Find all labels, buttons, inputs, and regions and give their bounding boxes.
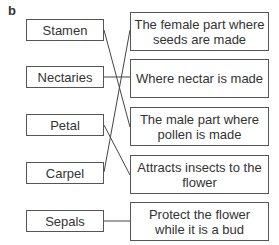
term-stamen[interactable]: Stamen: [26, 19, 104, 41]
definition-male-part[interactable]: The male part where pollen is made: [130, 107, 269, 146]
definition-nectar[interactable]: Where nectar is made: [130, 59, 269, 98]
definition-female-part[interactable]: The female part where seeds are made: [130, 12, 269, 51]
definition-attracts-insects[interactable]: Attracts insects to the flower: [130, 155, 269, 194]
term-sepals[interactable]: Sepals: [26, 210, 104, 232]
term-nectaries[interactable]: Nectaries: [26, 66, 104, 88]
term-petal[interactable]: Petal: [26, 114, 104, 136]
connector-stamen: [104, 30, 130, 127]
definition-protect-bud[interactable]: Protect the flower while it is a bud: [130, 202, 269, 241]
term-carpel[interactable]: Carpel: [26, 162, 104, 184]
